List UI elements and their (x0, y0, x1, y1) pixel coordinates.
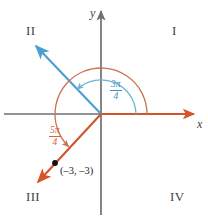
plotted-point (52, 160, 58, 166)
angle-label-3pi-over-4-numerator: 3π (110, 80, 122, 90)
y-axis-label: y (90, 7, 95, 19)
angle-label-5pi-over-4-numerator: 5π (49, 126, 61, 136)
quadrant-label-IV: IV (170, 190, 184, 203)
x-axis-label: x (197, 118, 202, 130)
quadrant-label-III: III (26, 190, 40, 203)
quadrant-label-II: II (26, 24, 35, 37)
point-coordinate-label: (–3, –3) (60, 166, 93, 177)
angle-label-5pi-over-4: 5π 4 (49, 126, 61, 148)
terminal-ray-3pi-4 (36, 46, 101, 114)
angle-label-5pi-over-4-denominator: 4 (49, 138, 61, 148)
quadrant-label-I: I (172, 24, 177, 37)
angle-diagram-figure: I II III IV y x 3π 4 5π 4 (–3, –3) (0, 0, 208, 220)
angle-label-3pi-over-4-denominator: 4 (110, 92, 122, 102)
angle-label-3pi-over-4: 3π 4 (110, 80, 122, 102)
